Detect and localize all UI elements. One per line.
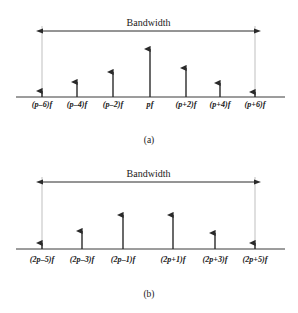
tick-label-4: pf [146, 100, 155, 109]
tick-label-1: (2p–5)f [30, 255, 56, 264]
tick-label-6: (p+4)f [209, 100, 231, 109]
tick-label-2: (p–4)f [67, 100, 89, 109]
spectrum-svg: Bandwidth(p–6)f(p–4)f(p–2)fpf(p+2)f(p+4)… [0, 0, 298, 313]
tick-label-4: (2p+1)f [160, 255, 186, 264]
tick-label-2: (2p–3)f [70, 255, 96, 264]
panel-caption-2: (b) [143, 289, 154, 300]
bandwidth-label: Bandwidth [127, 168, 171, 179]
tick-label-5: (p+2)f [175, 100, 197, 109]
tick-label-1: (p–6)f [32, 100, 54, 109]
tick-label-6: (2p+5)f [242, 255, 268, 264]
spectrum-panel-2: Bandwidth(2p–5)f(2p–3)f(2p–1)f(2p+1)f(2p… [16, 168, 285, 300]
tick-label-3: (p–2)f [103, 100, 125, 109]
tick-label-3: (2p–1)f [111, 255, 137, 264]
tick-label-5: (2p+3)f [202, 255, 228, 264]
bandwidth-label: Bandwidth [127, 17, 171, 28]
panel-caption-1: (a) [144, 135, 155, 146]
tick-label-7: (p+6)f [244, 100, 266, 109]
spectrum-panel-1: Bandwidth(p–6)f(p–4)f(p–2)fpf(p+2)f(p+4)… [16, 17, 285, 146]
panels-root: Bandwidth(p–6)f(p–4)f(p–2)fpf(p+2)f(p+4)… [16, 17, 285, 300]
spectrum-figure: Bandwidth(p–6)f(p–4)f(p–2)fpf(p+2)f(p+4)… [0, 0, 298, 313]
